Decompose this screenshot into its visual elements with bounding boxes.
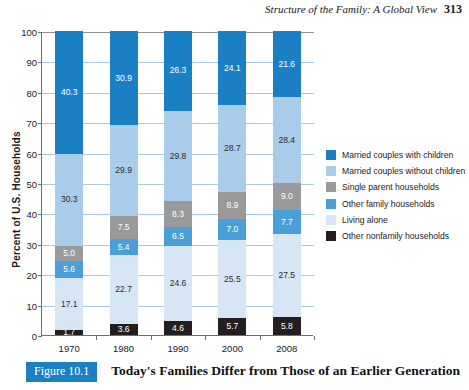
figure-title: Today's Families Differ from Those of an… — [111, 362, 460, 379]
bar-value-label: 30.9 — [115, 74, 132, 83]
legend-label: Single parent households — [342, 182, 439, 192]
bar-value-label: 7.7 — [281, 218, 293, 227]
bar-segment: 6.5 — [164, 227, 192, 247]
bar-value-label: 22.7 — [115, 285, 132, 294]
bar-segment: 5.6 — [55, 261, 83, 278]
bar-1970: 40.330.35.05.617.11.7 — [55, 31, 83, 335]
bar-value-label: 28.7 — [224, 144, 241, 153]
y-tick-label: 100 — [21, 27, 37, 38]
bar-value-label: 5.0 — [63, 249, 75, 258]
bar-value-label: 30.3 — [61, 195, 78, 204]
bar-segment: 40.3 — [55, 31, 83, 154]
bar-value-label: 5.4 — [118, 243, 130, 252]
y-tick-mark — [38, 275, 42, 276]
bar-2000: 24.128.78.97.025.55.7 — [218, 31, 246, 335]
x-tick-label-1980: 1980 — [110, 336, 138, 354]
legend-label: Married couples with children — [342, 150, 453, 160]
legend-item[interactable]: Married couples without children — [326, 166, 468, 176]
bar-value-label: 9.0 — [281, 192, 293, 201]
bar-value-label: 24.6 — [170, 279, 187, 288]
bar-segment: 5.7 — [218, 318, 246, 335]
legend-label: Other nonfamily households — [342, 231, 449, 241]
bar-segment: 5.4 — [110, 239, 138, 255]
bar-segment: 24.6 — [164, 246, 192, 321]
y-tick-label: 50 — [26, 179, 37, 190]
bar-value-label: 28.4 — [279, 136, 296, 145]
bar-segment: 28.4 — [273, 97, 301, 183]
bar-segment: 29.8 — [164, 111, 192, 202]
bar-value-label: 27.5 — [279, 271, 296, 280]
bar-segment: 7.5 — [110, 216, 138, 239]
bar-value-label: 26.3 — [170, 66, 187, 75]
bar-segment: 1.7 — [55, 330, 83, 335]
bar-segment: 26.3 — [164, 31, 192, 111]
y-tick-mark — [38, 245, 42, 246]
bar-value-label: 4.6 — [172, 324, 184, 333]
bar-value-label: 40.3 — [61, 88, 78, 97]
bar-value-label: 8.9 — [226, 201, 238, 210]
bar-segment: 5.0 — [55, 246, 83, 261]
legend-item[interactable]: Living alone — [326, 215, 468, 225]
bar-segment: 7.0 — [218, 219, 246, 240]
bar-1990: 26.329.88.36.524.64.6 — [164, 31, 192, 335]
bar-value-label: 5.7 — [226, 322, 238, 331]
running-title: Structure of the Family: A Global View — [265, 3, 437, 15]
bar-segment: 17.1 — [55, 278, 83, 330]
bar-segment: 25.5 — [218, 240, 246, 318]
y-tick-mark — [38, 214, 42, 215]
bar-segment: 3.6 — [110, 324, 138, 335]
y-tick-label: 40 — [26, 209, 37, 220]
bar-segment: 4.6 — [164, 321, 192, 335]
x-tick-mark — [314, 336, 315, 340]
x-tick-mark — [205, 336, 206, 340]
y-tick-mark — [38, 306, 42, 307]
bar-segment: 8.3 — [164, 201, 192, 226]
bar-value-label: 21.6 — [279, 60, 296, 69]
bar-value-label: 24.1 — [224, 64, 241, 73]
legend-item[interactable]: Other nonfamily households — [326, 231, 468, 241]
figure-number-badge: Figure 10.1 — [26, 362, 97, 382]
legend-swatch-icon — [326, 231, 336, 241]
figure-caption: Figure 10.1 Today's Families Differ from… — [26, 362, 460, 382]
x-tick-mark — [96, 336, 97, 340]
bar-segment: 5.8 — [273, 317, 301, 335]
bar-segment: 24.1 — [218, 31, 246, 104]
y-tick-mark — [38, 154, 42, 155]
plot-area: 010203040506070809010040.330.35.05.617.1… — [41, 32, 313, 336]
bar-value-label: 3.6 — [118, 325, 130, 334]
bar-value-label: 29.9 — [115, 166, 132, 175]
bar-value-label: 6.5 — [172, 232, 184, 241]
x-tick-label-2000: 2000 — [218, 336, 246, 354]
legend-item[interactable]: Single parent households — [326, 182, 468, 192]
legend-swatch-icon — [326, 215, 336, 225]
bar-value-label: 17.1 — [61, 300, 78, 309]
bar-value-label: 29.8 — [170, 152, 187, 161]
y-tick-mark — [38, 32, 42, 33]
legend-swatch-icon — [326, 150, 336, 160]
chart-legend: Married couples with childrenMarried cou… — [326, 150, 468, 247]
bar-segment: 21.6 — [273, 31, 301, 97]
bar-segment: 7.7 — [273, 210, 301, 233]
bar-segment: 30.9 — [110, 31, 138, 125]
y-tick-label: 10 — [26, 300, 37, 311]
x-tick-mark — [151, 336, 152, 340]
bar-value-label: 25.5 — [224, 275, 241, 284]
x-tick-label-1990: 1990 — [164, 336, 192, 354]
bar-segment: 8.9 — [218, 192, 246, 219]
bar-value-label: 1.7 — [63, 330, 75, 335]
page-number: 313 — [444, 2, 462, 16]
bar-1980: 30.929.97.55.422.73.6 — [110, 31, 138, 335]
y-tick-label: 0 — [32, 331, 37, 342]
legend-label: Married couples without children — [342, 166, 465, 176]
bar-segment: 28.7 — [218, 105, 246, 192]
bar-value-label: 5.8 — [281, 322, 293, 331]
y-tick-label: 30 — [26, 239, 37, 250]
legend-item[interactable]: Other family households — [326, 199, 468, 209]
y-tick-label: 90 — [26, 57, 37, 68]
running-header: Structure of the Family: A Global View31… — [0, 2, 462, 17]
legend-item[interactable]: Married couples with children — [326, 150, 468, 160]
bar-segment: 29.9 — [110, 125, 138, 216]
y-tick-mark — [38, 184, 42, 185]
bar-segment: 30.3 — [55, 154, 83, 246]
y-tick-label: 20 — [26, 270, 37, 281]
